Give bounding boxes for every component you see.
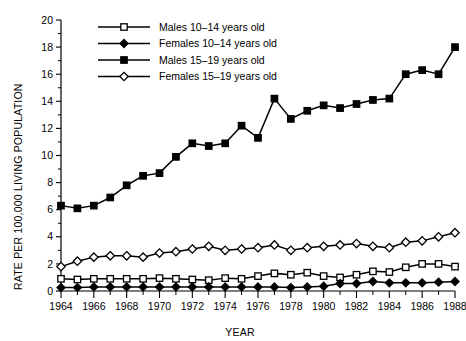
marker-open-diamond	[120, 72, 128, 80]
marker-open-square	[419, 261, 425, 267]
legend-item[interactable]: Females 10–14 years old	[98, 37, 277, 49]
marker-open-square	[288, 272, 294, 278]
marker-open-diamond	[122, 252, 130, 260]
y-tick-label: 6	[47, 203, 53, 215]
marker-open-square	[140, 276, 146, 282]
marker-open-square	[452, 263, 458, 269]
x-tick-label: 1986	[410, 300, 434, 312]
marker-filled-square	[91, 202, 97, 208]
y-axis: 02468101214161820	[41, 14, 61, 297]
marker-filled-diamond	[120, 40, 128, 48]
marker-open-diamond	[139, 253, 147, 261]
marker-open-diamond	[237, 245, 245, 253]
marker-open-diamond	[155, 249, 163, 257]
marker-open-square	[189, 276, 195, 282]
marker-open-diamond	[221, 246, 229, 254]
marker-open-diamond	[319, 242, 327, 250]
marker-filled-square	[206, 143, 212, 149]
x-tick-label: 1978	[279, 300, 303, 312]
data-series	[57, 229, 459, 271]
marker-filled-square	[435, 71, 441, 77]
marker-filled-diamond	[106, 283, 114, 291]
legend-item[interactable]: Males 15–19 years old	[98, 54, 265, 66]
x-tick-label: 1984	[378, 300, 402, 312]
marker-open-square	[222, 275, 228, 281]
marker-filled-square	[123, 182, 129, 188]
marker-open-diamond	[188, 245, 196, 253]
x-tick-label: 1980	[312, 300, 336, 312]
x-axis-title: YEAR	[225, 326, 255, 338]
marker-filled-square	[403, 71, 409, 77]
y-tick-label: 0	[47, 285, 53, 297]
y-tick-label: 18	[41, 41, 53, 53]
marker-filled-square	[58, 202, 64, 208]
marker-open-diamond	[402, 238, 410, 246]
x-tick-label: 1970	[148, 300, 172, 312]
marker-open-square	[156, 275, 162, 281]
marker-filled-square	[140, 173, 146, 179]
y-tick-label: 20	[41, 14, 53, 26]
marker-open-square	[173, 276, 179, 282]
marker-filled-square	[189, 140, 195, 146]
marker-filled-diamond	[369, 278, 377, 286]
y-tick-label: 10	[41, 149, 53, 161]
y-tick-label: 4	[47, 230, 53, 242]
marker-filled-square	[173, 154, 179, 160]
marker-filled-diamond	[123, 283, 131, 291]
marker-filled-diamond	[221, 283, 229, 291]
marker-open-diamond	[434, 233, 442, 241]
legend-item[interactable]: Males 10–14 years old	[98, 21, 265, 33]
legend-label: Females 15–19 years old	[159, 70, 277, 82]
marker-filled-square	[337, 105, 343, 111]
marker-filled-diamond	[418, 279, 426, 287]
marker-filled-diamond	[238, 283, 246, 291]
marker-open-square	[123, 276, 129, 282]
marker-filled-square	[353, 101, 359, 107]
x-tick-label: 1966	[82, 300, 106, 312]
marker-filled-square	[370, 97, 376, 103]
marker-filled-diamond	[139, 283, 147, 291]
legend-label: Males 15–19 years old	[159, 54, 265, 66]
marker-open-square	[386, 269, 392, 275]
marker-filled-diamond	[205, 283, 213, 291]
marker-open-diamond	[385, 243, 393, 251]
y-tick-label: 14	[41, 95, 53, 107]
x-tick-label: 1972	[181, 300, 205, 312]
marker-filled-square	[222, 140, 228, 146]
marker-open-diamond	[287, 246, 295, 254]
marker-open-diamond	[106, 252, 114, 260]
marker-filled-diamond	[172, 283, 180, 291]
marker-open-diamond	[418, 237, 426, 245]
marker-filled-square	[419, 67, 425, 73]
marker-filled-square	[320, 102, 326, 108]
marker-filled-square	[386, 95, 392, 101]
marker-open-square	[74, 276, 80, 282]
marker-open-diamond	[336, 241, 344, 249]
marker-open-square	[238, 276, 244, 282]
marker-filled-square	[238, 122, 244, 128]
marker-filled-square	[271, 95, 277, 101]
y-axis-title-group: RATE PER 100,000 LIVING POPULATION	[12, 83, 24, 290]
chart-legend: Males 10–14 years oldFemales 10–14 years…	[98, 21, 277, 83]
x-tick-label: 1974	[213, 300, 237, 312]
legend-item[interactable]: Females 15–19 years old	[98, 70, 277, 82]
y-tick-label: 2	[47, 258, 53, 270]
marker-open-square	[271, 270, 277, 276]
marker-open-diamond	[451, 229, 459, 237]
marker-open-diamond	[205, 242, 213, 250]
marker-filled-square	[156, 170, 162, 176]
marker-filled-diamond	[90, 283, 98, 291]
marker-filled-diamond	[451, 278, 459, 286]
marker-open-diamond	[172, 248, 180, 256]
marker-open-diamond	[352, 239, 360, 247]
legend-label: Males 10–14 years old	[159, 21, 265, 33]
marker-filled-diamond	[402, 279, 410, 287]
x-tick-label: 1968	[115, 300, 139, 312]
marker-open-diamond	[369, 242, 377, 250]
y-axis-title: RATE PER 100,000 LIVING POPULATION	[12, 83, 24, 290]
marker-open-diamond	[270, 241, 278, 249]
marker-filled-square	[255, 135, 261, 141]
marker-open-square	[353, 272, 359, 278]
marker-open-square	[403, 264, 409, 270]
marker-filled-square	[121, 57, 127, 63]
